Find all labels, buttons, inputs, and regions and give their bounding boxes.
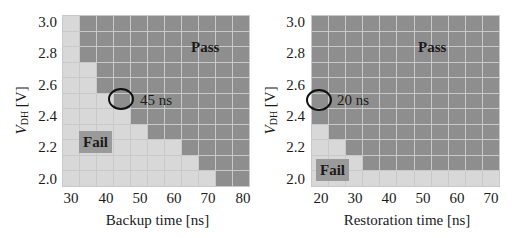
pass-cell: [329, 109, 345, 124]
pass-cell: [483, 32, 499, 47]
pass-cell: [449, 94, 465, 109]
pass-cell: [466, 47, 482, 62]
fail-cell: [466, 171, 482, 186]
restoration-time-chart: VDH [V] 3.0 2.8 2.6 2.4 2.2 2.0 20 30 40…: [257, 0, 515, 238]
pass-cell: [80, 32, 96, 47]
pass-cell: [329, 63, 345, 78]
x-tick: 50: [125, 191, 155, 206]
pass-cell: [415, 125, 431, 140]
pass-cell: [483, 94, 499, 109]
y-tick: 2.0: [27, 172, 57, 187]
pass-cell: [329, 16, 345, 31]
pass-cell: [432, 78, 448, 93]
x-tick: 30: [56, 191, 86, 206]
pass-cell: [233, 78, 249, 93]
pass-cell: [363, 109, 379, 124]
threshold-circle: [108, 88, 134, 110]
y-tick: 2.8: [27, 46, 57, 61]
fail-cell: [63, 63, 79, 78]
pass-cell: [233, 171, 249, 186]
pass-cell: [182, 94, 198, 109]
pass-cell: [131, 32, 147, 47]
pass-cell: [148, 16, 164, 31]
pass-cell: [131, 63, 147, 78]
x-tick: 50: [408, 191, 438, 206]
y-tick: 3.0: [27, 15, 57, 30]
x-tick: 60: [442, 191, 472, 206]
pass-cell: [233, 109, 249, 124]
fail-cell: [483, 171, 499, 186]
pass-cell: [380, 156, 396, 171]
pass-cell: [483, 140, 499, 155]
pass-cell: [182, 16, 198, 31]
pass-cell: [397, 125, 413, 140]
pass-cell: [199, 78, 215, 93]
pass-cell: [397, 156, 413, 171]
fail-cell: [363, 171, 379, 186]
fail-cell: [80, 94, 96, 109]
pass-cell: [182, 140, 198, 155]
y-tick: 2.8: [275, 46, 305, 61]
pass-cell: [97, 47, 113, 62]
pass-cell: [312, 32, 328, 47]
pass-cell: [97, 32, 113, 47]
pass-cell: [312, 63, 328, 78]
pass-cell: [216, 63, 232, 78]
pass-cell: [148, 125, 164, 140]
fail-cell: [182, 171, 198, 186]
x-axis-title: Restoration time [ns]: [342, 212, 472, 229]
fail-cell: [182, 156, 198, 171]
fail-cell: [80, 78, 96, 93]
pass-cell: [148, 78, 164, 93]
fail-cell: [63, 47, 79, 62]
pass-cell: [363, 47, 379, 62]
pass-cell: [312, 109, 328, 124]
pass-cell: [165, 78, 181, 93]
pass-cell: [483, 156, 499, 171]
fail-cell: [449, 171, 465, 186]
pass-cell: [397, 16, 413, 31]
fail-cell: [63, 125, 79, 140]
pass-cell: [148, 63, 164, 78]
fail-cell: [165, 156, 181, 171]
pass-cell: [432, 125, 448, 140]
pass-cell: [216, 78, 232, 93]
x-tick: 70: [476, 191, 506, 206]
pass-cell: [182, 125, 198, 140]
fail-cell: [63, 140, 79, 155]
pass-cell: [483, 109, 499, 124]
fail-cell: [114, 156, 130, 171]
pass-cell: [199, 156, 215, 171]
fail-cell: [80, 171, 96, 186]
pass-cell: [199, 16, 215, 31]
pass-cell: [80, 16, 96, 31]
fail-cell: [148, 171, 164, 186]
fail-region-label: Fail: [79, 131, 112, 153]
pass-cell: [432, 140, 448, 155]
fail-cell: [63, 78, 79, 93]
pass-cell: [415, 156, 431, 171]
pass-cell: [165, 109, 181, 124]
fail-cell: [97, 109, 113, 124]
fail-cell: [199, 171, 215, 186]
fail-cell: [97, 171, 113, 186]
y-tick: 2.6: [27, 78, 57, 93]
pass-cell: [363, 125, 379, 140]
pass-cell: [346, 109, 362, 124]
pass-cell: [466, 140, 482, 155]
pass-cell: [312, 47, 328, 62]
fail-cell: [97, 156, 113, 171]
y-tick: 2.2: [275, 140, 305, 155]
pass-cell: [148, 109, 164, 124]
fail-cell: [114, 125, 130, 140]
y-tick: 2.2: [27, 140, 57, 155]
y-axis-title: VDH [V]: [13, 65, 30, 135]
pass-cell: [415, 109, 431, 124]
pass-cell: [449, 109, 465, 124]
pass-cell: [380, 94, 396, 109]
pass-cell: [449, 47, 465, 62]
pass-cell: [346, 47, 362, 62]
pass-region-label: Pass: [191, 39, 219, 55]
pass-cell: [397, 109, 413, 124]
pass-cell: [449, 32, 465, 47]
